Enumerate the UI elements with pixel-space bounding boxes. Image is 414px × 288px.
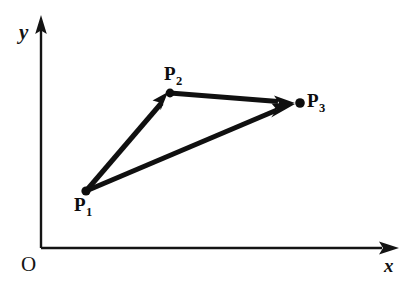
x-axis-label: x bbox=[384, 256, 394, 275]
vector-p1-p3-shaft bbox=[86, 110, 277, 191]
point-label-p1-subscript: 1 bbox=[86, 205, 92, 219]
point-dot-p2 bbox=[166, 89, 175, 98]
point-label-p3-subscript: 3 bbox=[319, 101, 325, 115]
y-axis-label: y bbox=[19, 22, 28, 43]
vector-p2-p3-shaft bbox=[170, 93, 278, 102]
point-label-p2: P2 bbox=[164, 64, 182, 87]
vector-triangle-figure bbox=[0, 0, 414, 288]
diagram-canvas: y x O P1 P2 P3 bbox=[0, 0, 414, 288]
origin-label: O bbox=[21, 254, 36, 275]
point-label-p2-base: P bbox=[164, 63, 176, 84]
point-label-p3-base: P bbox=[307, 90, 319, 111]
point-label-p2-subscript: 2 bbox=[176, 74, 182, 88]
point-label-p3: P3 bbox=[307, 91, 325, 114]
vectors-group bbox=[86, 92, 295, 191]
point-label-p1: P1 bbox=[74, 195, 92, 218]
point-dot-p3 bbox=[295, 98, 305, 108]
point-label-p1-base: P bbox=[74, 194, 86, 215]
vector-p1-p2-shaft bbox=[86, 103, 162, 191]
